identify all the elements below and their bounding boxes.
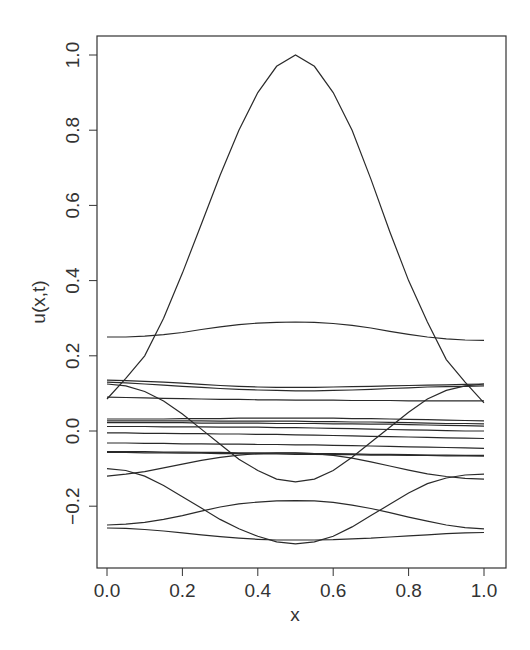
y-tick-label: 0.0 <box>62 418 83 444</box>
y-axis-title: u(x,t) <box>28 280 49 323</box>
x-tick-label: 0.2 <box>169 580 195 601</box>
series-line-t16 <box>107 501 484 529</box>
series-lines <box>107 55 484 544</box>
y-tick-label: 0.8 <box>62 117 83 143</box>
series-line-t2 <box>107 380 484 387</box>
y-axis: −0.20.00.20.40.60.81.0 <box>62 42 97 525</box>
plot-frame <box>97 36 506 568</box>
y-tick-label: 0.4 <box>62 267 83 294</box>
series-line-t17 <box>107 528 484 540</box>
series-line-t0 <box>107 55 484 403</box>
x-tick-label: 0.8 <box>395 580 421 601</box>
series-line-t1 <box>107 322 484 340</box>
y-tick-label: 1.0 <box>62 42 83 68</box>
series-line-t3 <box>107 382 484 391</box>
x-tick-label: 0.4 <box>245 580 272 601</box>
x-axis-title: x <box>290 604 300 625</box>
y-tick-label: −0.2 <box>62 487 83 525</box>
series-line-t11 <box>107 443 484 448</box>
x-tick-label: 0.0 <box>94 580 120 601</box>
series-line-t14 <box>107 453 484 479</box>
series-line-t10 <box>107 433 484 439</box>
x-tick-label: 1.0 <box>471 580 497 601</box>
series-line-t15 <box>107 469 484 544</box>
x-axis: 0.00.20.40.60.81.0 <box>94 568 497 601</box>
chart: 0.00.20.40.60.81.0 −0.20.00.20.40.60.81.… <box>0 0 530 650</box>
y-tick-label: 0.6 <box>62 192 83 218</box>
x-tick-label: 0.6 <box>320 580 346 601</box>
y-tick-label: 0.2 <box>62 343 83 369</box>
series-line-t9 <box>107 427 484 432</box>
